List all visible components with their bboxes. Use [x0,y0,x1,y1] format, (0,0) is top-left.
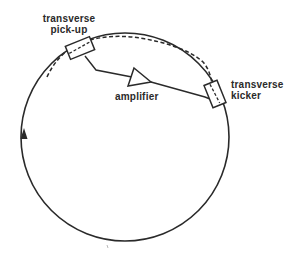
kicker-label-line1: transverse [231,79,284,90]
kicker-label-line2: kicker [231,90,284,101]
kicker-box [204,80,226,107]
pickup-label-line1: transverse [41,13,97,24]
signal-line-amplifier-kicker [151,82,210,99]
amplifier-triangle-icon [128,68,151,86]
amplifier-label: amplifier [115,91,158,102]
storage-ring [21,33,229,241]
stochastic-cooling-diagram: transverse pick-up amplifier transverse … [0,0,297,259]
speck-mark [107,245,108,248]
signal-line-pickup-amplifier [85,56,137,78]
kicker-label: transverse kicker [231,79,284,101]
pickup-label-line2: pick-up [41,24,97,35]
pickup-box [65,37,94,60]
pickup-label: transverse pick-up [41,13,97,35]
